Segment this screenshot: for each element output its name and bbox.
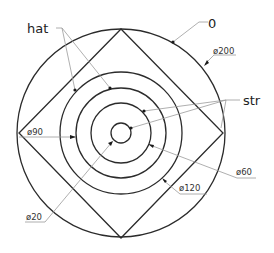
label-zero: 0 xyxy=(208,16,216,31)
zero-leader xyxy=(171,22,208,44)
circle-120 xyxy=(60,72,182,194)
label-d120: ø120 xyxy=(179,183,200,193)
inscribed-square xyxy=(19,29,223,238)
outer-circle xyxy=(17,29,225,237)
label-str: str xyxy=(243,93,261,108)
hat-leader xyxy=(56,28,112,92)
str-leader xyxy=(129,100,240,130)
label-d90: ø90 xyxy=(27,127,43,137)
label-d60: ø60 xyxy=(236,167,252,177)
label-d20: ø20 xyxy=(26,212,42,222)
circle-20 xyxy=(111,123,131,143)
label-hat: hat xyxy=(27,21,48,36)
circle-square-drawing: hat 0 ø200 str ø90 ø60 ø120 xyxy=(0,0,274,253)
d200-leader xyxy=(204,55,236,66)
circle-60 xyxy=(91,103,151,163)
circle-90 xyxy=(76,88,166,178)
label-d200: ø200 xyxy=(213,46,234,56)
